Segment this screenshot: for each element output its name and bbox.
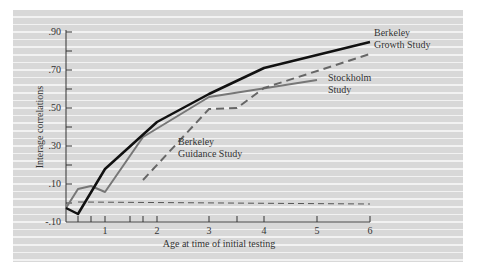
x-tick-labels: 1 2 3 4 5 6 — [103, 225, 373, 236]
x-tick-label: 3 — [207, 225, 212, 236]
x-tick-label: 2 — [155, 225, 160, 236]
zero-reference-line — [78, 202, 370, 204]
y-tick-label: .10 — [49, 178, 62, 189]
x-ticks — [78, 216, 370, 222]
y-tick-label: .50 — [49, 102, 62, 113]
growth-study-label: Berkeley Growth Study — [374, 27, 430, 50]
y-ticks — [66, 32, 72, 203]
y-tick-labels: .90 .70 .50 .30 .10 -.10 — [45, 26, 61, 227]
x-tick-label: 5 — [315, 225, 320, 236]
svg-text:Stockholm: Stockholm — [328, 72, 372, 83]
svg-text:Guidance Study: Guidance Study — [178, 148, 242, 159]
svg-text:Study: Study — [328, 84, 351, 95]
guidance-study-label: Berkeley Guidance Study — [178, 136, 242, 159]
svg-text:Berkeley: Berkeley — [178, 136, 214, 147]
stockholm-study-label: Stockholm Study — [328, 72, 372, 95]
svg-text:Growth Study: Growth Study — [374, 39, 430, 50]
x-axis-label: Age at time of initial testing — [163, 238, 275, 249]
x-tick-label: 1 — [103, 225, 108, 236]
y-tick-label: .30 — [49, 140, 62, 151]
x-tick-label: 4 — [262, 225, 267, 236]
x-tick-label: 6 — [368, 225, 373, 236]
y-tick-label: -.10 — [45, 216, 61, 227]
y-tick-label: .70 — [49, 64, 62, 75]
line-chart: .90 .70 .50 .30 .10 -.10 1 2 3 4 5 6 Age… — [0, 0, 482, 267]
y-axis-label: Interage correlations — [34, 86, 45, 169]
y-tick-label: .90 — [49, 26, 62, 37]
svg-text:Berkeley: Berkeley — [374, 27, 410, 38]
